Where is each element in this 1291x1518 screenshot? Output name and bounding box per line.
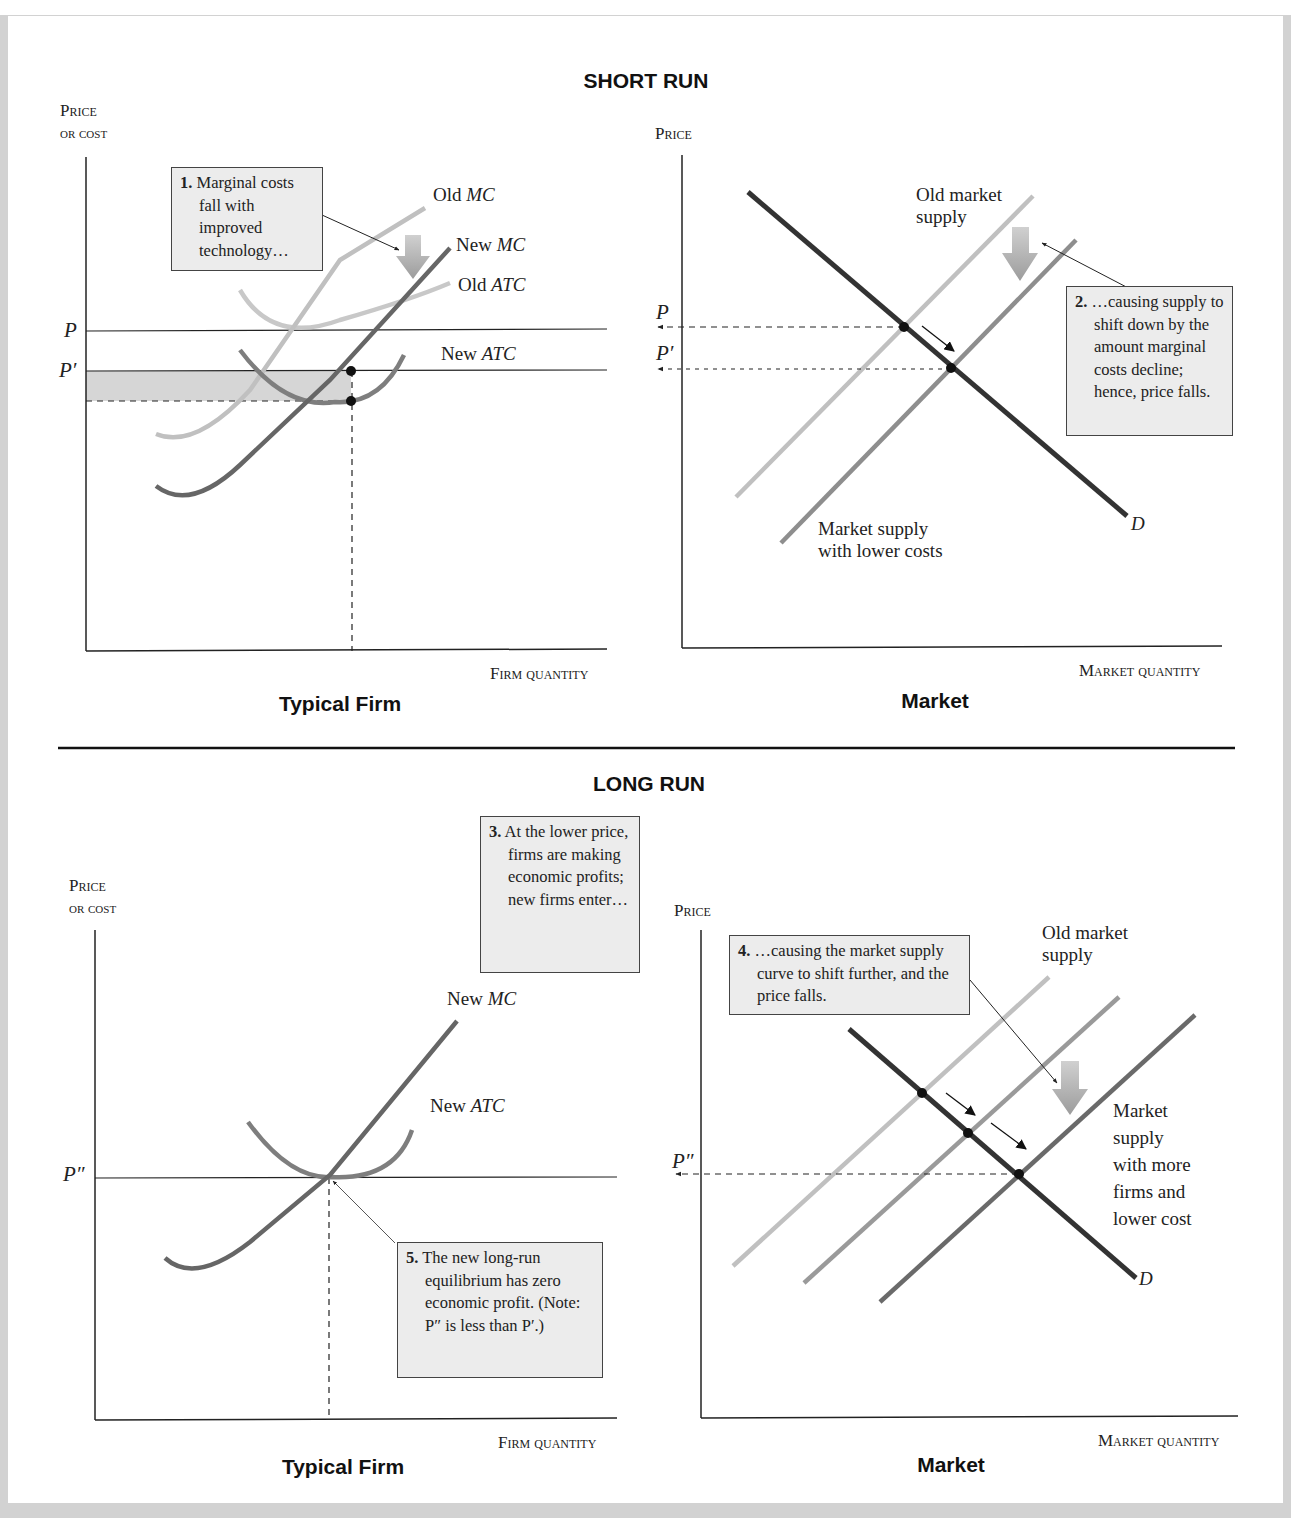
label-market-supply-more-firms: Market supply with more firms and lower …	[1113, 1097, 1192, 1232]
sr-firm-x-axis-label: Firm quantity	[490, 663, 588, 685]
old-equilibrium-point	[917, 1088, 927, 1098]
lr-market-price-p-double-prime: P″	[672, 1149, 694, 1174]
old-supply-curve	[736, 196, 1033, 497]
new-atc-curve	[248, 1122, 412, 1177]
sr-market-price-p: P	[656, 300, 669, 325]
intermediate-equilibrium-point	[963, 1128, 973, 1138]
sr-firm-price-p-prime: P′	[59, 358, 76, 383]
atc-point	[346, 396, 356, 406]
shift-down-arrow-icon	[1002, 227, 1038, 281]
sr-firm-subtitle: Typical Firm	[279, 692, 401, 716]
note-4: 4. …causing the market supply curve to s…	[729, 935, 970, 1015]
lr-firm-x-axis-label: Firm quantity	[498, 1432, 596, 1454]
y-axis-line1: Price	[60, 100, 107, 122]
label-lr-demand: D	[1139, 1268, 1153, 1290]
label-old-mc: Old MC	[433, 184, 495, 206]
x-axis	[95, 1418, 617, 1420]
sr-firm-y-axis-label: Price or cost	[60, 100, 107, 144]
new-equilibrium-point	[1014, 1169, 1024, 1179]
note2-leader	[1042, 243, 1134, 291]
sr-market-subtitle: Market	[901, 689, 969, 713]
note-2: 2. …causing supply to shift down by the …	[1066, 286, 1233, 436]
sr-firm-price-p: P	[64, 318, 77, 343]
section-title-long-run: LONG RUN	[593, 772, 705, 796]
label-new-atc: New ATC	[441, 343, 516, 365]
demand-curve	[849, 1029, 1136, 1278]
old-supply-curve	[733, 977, 1049, 1266]
x-axis	[701, 1416, 1238, 1418]
label-lr-new-mc: New MC	[447, 988, 516, 1010]
x-axis	[682, 646, 1222, 648]
label-lr-old-market-supply: Old market supply	[1042, 922, 1128, 966]
price-line-p	[86, 329, 607, 331]
sr-market-price-p-prime: P′	[656, 341, 673, 366]
label-demand: D	[1131, 513, 1145, 535]
sr-market-x-axis-label: Market quantity	[1079, 660, 1200, 682]
y-axis-line2: or cost	[69, 897, 116, 919]
movement-arrow-1-icon	[946, 1093, 975, 1115]
label-new-mc: New MC	[456, 234, 525, 256]
note-1: 1. Marginal costs fall with improved tec…	[171, 167, 323, 271]
lr-market-subtitle: Market	[917, 1453, 985, 1477]
label-lr-new-atc: New ATC	[430, 1095, 505, 1117]
note-5: 5. The new long-run equilibrium has zero…	[397, 1242, 603, 1378]
sr-market-y-axis-label: Price	[655, 123, 692, 145]
new-mc-curve	[165, 1021, 457, 1268]
old-equilibrium-point	[899, 322, 909, 332]
label-old-market-supply: Old market supply	[916, 184, 1002, 228]
equilibrium-point	[346, 366, 356, 376]
note-3: 3. At the lower price, firms are making …	[480, 816, 640, 973]
lr-firm-y-axis-label: Price or cost	[69, 875, 116, 919]
lr-market-y-axis-label: Price	[674, 900, 711, 922]
sr-firm-chart	[86, 157, 607, 651]
shift-down-arrow-icon	[1052, 1061, 1088, 1115]
lr-market-x-axis-label: Market quantity	[1098, 1430, 1219, 1452]
note5-leader	[333, 1181, 395, 1243]
old-atc-curve	[240, 283, 450, 328]
label-market-supply-lower-costs: Market supply with lower costs	[818, 518, 943, 562]
y-axis-line2: or cost	[60, 122, 107, 144]
y-axis-line1: Price	[69, 875, 116, 897]
intermediate-supply-curve	[804, 997, 1119, 1283]
section-title-short-run: SHORT RUN	[584, 69, 709, 93]
note4-leader	[970, 980, 1057, 1083]
label-old-atc: Old ATC	[458, 274, 525, 296]
new-supply-curve	[781, 240, 1076, 543]
new-equilibrium-point	[946, 363, 956, 373]
x-axis	[86, 649, 607, 651]
lr-firm-price-p-double-prime: P″	[63, 1162, 85, 1187]
movement-arrow-2-icon	[991, 1123, 1026, 1149]
lr-firm-subtitle: Typical Firm	[282, 1455, 404, 1479]
